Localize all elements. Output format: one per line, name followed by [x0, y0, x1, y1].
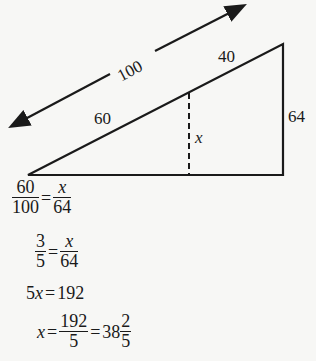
- lhs: 5x: [26, 284, 43, 302]
- big-triangle: [28, 44, 283, 175]
- frac-den: 64: [53, 198, 71, 218]
- equation-line-4: x = 1925 = 38 25: [37, 312, 131, 352]
- variable-x: x: [35, 283, 43, 303]
- frac-den: 5: [59, 332, 88, 352]
- label-64: 64: [288, 107, 306, 126]
- frac-num: 60: [12, 178, 39, 198]
- label-x: x: [194, 128, 203, 147]
- label-60: 60: [94, 109, 111, 128]
- equals-sign: =: [48, 243, 58, 261]
- frac-num: x: [53, 178, 71, 198]
- equals-sign: =: [47, 323, 57, 341]
- equation-line-3: 5x = 192: [26, 284, 84, 302]
- frac-den: 5: [35, 252, 46, 272]
- frac-num: 2: [120, 312, 131, 332]
- label-100: 100: [114, 56, 145, 85]
- equals-sign: =: [90, 323, 100, 341]
- arrow-upper: [155, 6, 243, 51]
- frac-den: 64: [60, 252, 78, 272]
- equation-line-1: 60100 = x64: [12, 178, 71, 218]
- lhs: x: [37, 323, 45, 341]
- rhs: 192: [57, 284, 84, 302]
- frac-num: 3: [35, 232, 46, 252]
- frac-num: 192: [59, 312, 88, 332]
- label-40: 40: [218, 47, 235, 66]
- frac-den: 5: [120, 332, 131, 352]
- frac-num: x: [60, 232, 78, 252]
- equals-sign: =: [41, 189, 51, 207]
- frac-den: 100: [12, 198, 39, 218]
- equals-sign: =: [45, 284, 55, 302]
- whole-part: 38: [102, 323, 120, 341]
- equation-line-2: 35 = x64: [35, 232, 78, 272]
